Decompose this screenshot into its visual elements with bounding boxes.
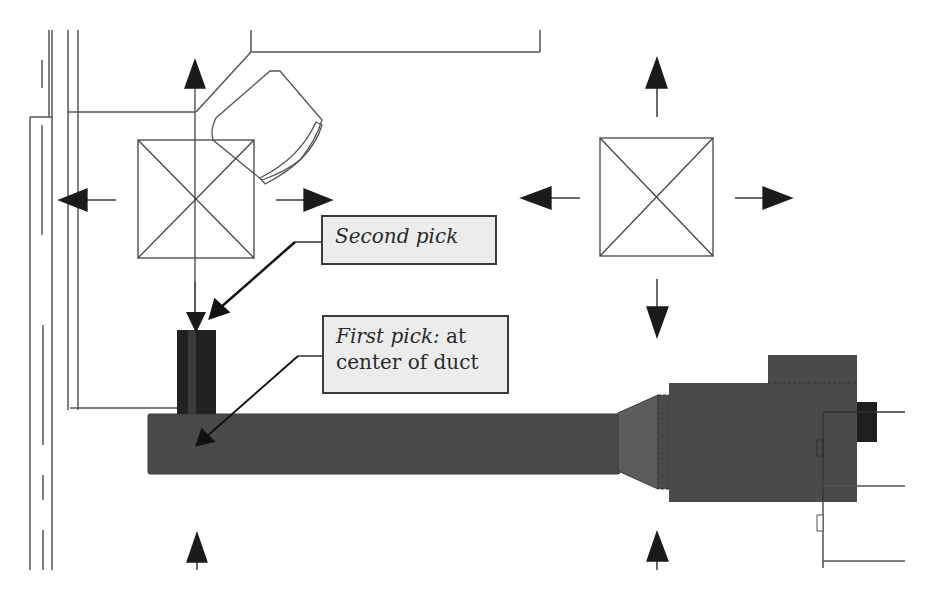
main-duct xyxy=(148,414,620,474)
callout-first-pick: First pick: at center of duct xyxy=(322,315,509,394)
air-handling-unit xyxy=(669,355,905,568)
duct-layout-drawing xyxy=(0,0,934,591)
arrow-down-icon xyxy=(186,312,206,333)
callout-first-pick-line1: at xyxy=(440,324,466,348)
callout-first-pick-label: First pick: xyxy=(336,324,440,348)
arrow-up-icon xyxy=(647,532,668,561)
transition-fitting xyxy=(618,395,669,489)
diffuser-left xyxy=(138,88,254,316)
arrow-down-icon xyxy=(647,307,668,337)
arrow-up-icon xyxy=(185,60,205,88)
callout-first-pick-line2: center of duct xyxy=(336,350,478,374)
arrow-left-icon xyxy=(521,187,551,209)
chair xyxy=(212,71,322,184)
arrow-right-icon xyxy=(304,189,332,211)
diffuser-right xyxy=(600,138,713,256)
arrow-left-icon xyxy=(59,189,87,211)
callout-second-pick-text: Second pick xyxy=(335,224,458,248)
arrow-up-icon xyxy=(187,533,207,562)
wall-lines xyxy=(30,30,540,570)
arrow-right-icon xyxy=(763,187,792,209)
arrow-up-icon xyxy=(646,58,667,88)
callout-second-pick: Second pick xyxy=(321,215,497,265)
vertical-duct xyxy=(177,282,216,414)
